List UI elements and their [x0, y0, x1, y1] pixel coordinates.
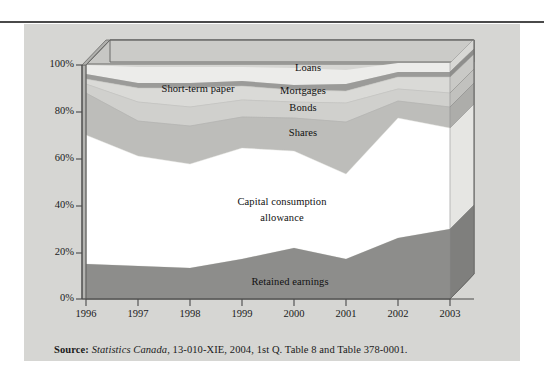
series-label-capital-consumption-line1: Capital consumption [212, 196, 352, 207]
y-tick-label-80: 80% [38, 105, 74, 116]
y-tick-label-60: 60% [38, 152, 74, 163]
x-tick-label-1999: 1999 [220, 308, 264, 319]
x-tick-label-1996: 1996 [64, 308, 108, 319]
series-label-short-term-paper: Short-term paper [143, 83, 253, 94]
source-note-publisher: Statistics Canada [92, 344, 168, 355]
source-note: Source: Statistics Canada, 13-010-XIE, 2… [54, 344, 408, 355]
source-note-prefix: Source: [54, 344, 89, 355]
y-tick-label-0: 0% [38, 292, 74, 303]
series-label-loans: Loans [268, 62, 348, 73]
x-tick-label-1998: 1998 [168, 308, 212, 319]
chart-3d-top-panel [110, 40, 474, 62]
series-label-mortgages: Mortgages [258, 85, 348, 96]
x-axis-ticks [86, 299, 450, 306]
chart-3d-side-faces [450, 39, 474, 299]
y-axis-ticks [76, 65, 82, 299]
series-label-capital-consumption-line2: allowance [212, 212, 352, 223]
series-label-shares: Shares [258, 127, 348, 138]
x-tick-label-2002: 2002 [376, 308, 420, 319]
area-series-group [86, 63, 450, 299]
series-label-bonds: Bonds [258, 102, 348, 113]
y-tick-label-40: 40% [38, 199, 74, 210]
figure-container: 100% 80% 60% 40% 20% 0% 1996 1997 1998 1… [0, 0, 544, 385]
top-divider-rule [0, 21, 544, 23]
y-tick-label-100: 100% [38, 58, 74, 69]
x-tick-label-2001: 2001 [324, 308, 368, 319]
y-tick-label-20: 20% [38, 246, 74, 257]
x-tick-label-2000: 2000 [272, 308, 316, 319]
source-note-rest: , 13-010-XIE, 2004, 1st Q. Table 8 and T… [167, 344, 407, 355]
x-tick-label-2003: 2003 [428, 308, 472, 319]
series-label-retained-earnings: Retained earnings [230, 276, 350, 287]
x-tick-label-1997: 1997 [116, 308, 160, 319]
